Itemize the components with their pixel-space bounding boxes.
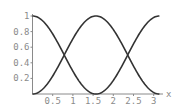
- axes: x: [32, 14, 172, 99]
- x-tick-label: 2.5: [125, 96, 141, 106]
- x-tick-label: 2: [111, 96, 116, 106]
- y-tick-label: 0.8: [13, 27, 29, 37]
- y-tick-label: 0.2: [13, 73, 29, 83]
- y-tick-label: 0.6: [13, 42, 29, 52]
- y-tick-label: 0.4: [13, 58, 29, 68]
- x-tick-label: 3: [151, 96, 156, 106]
- x-tick-label: 1.5: [85, 96, 101, 106]
- x-axis-label: x: [166, 89, 172, 99]
- cos-squared-curve: [33, 16, 160, 94]
- x-tick-label: 1: [70, 96, 75, 106]
- y-ticks: 0.20.40.60.81: [13, 11, 32, 83]
- curves: [33, 16, 160, 94]
- y-tick-label: 1: [24, 11, 29, 21]
- x-ticks: 0.511.522.53: [45, 94, 157, 106]
- chart: x 0.511.522.53 0.20.40.60.81: [0, 0, 180, 108]
- x-tick-label: 0.5: [45, 96, 61, 106]
- sin-squared-curve: [33, 16, 160, 94]
